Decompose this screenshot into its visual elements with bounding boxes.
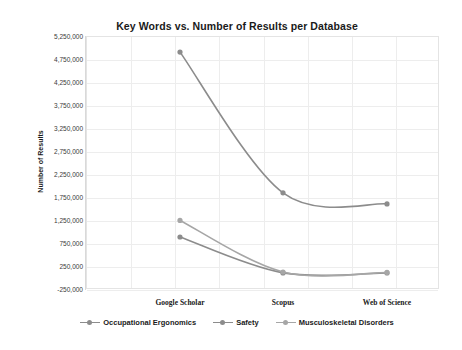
chart-container: Key Words vs. Number of Results per Data… [25, 10, 449, 340]
data-point-marker [177, 234, 182, 239]
legend-label: Safety [236, 318, 259, 327]
legend-label: Occupational Ergonomics [103, 318, 196, 327]
legend-marker-icon [213, 319, 233, 326]
legend-item[interactable]: Safety [213, 318, 259, 327]
legend-item[interactable]: Musculoskeletal Disorders [276, 318, 394, 327]
series-line [180, 220, 387, 275]
legend-item[interactable]: Occupational Ergonomics [80, 318, 196, 327]
data-point-marker [177, 50, 182, 55]
series-lines [25, 10, 449, 340]
series-line [180, 52, 387, 207]
legend-marker-icon [80, 319, 100, 326]
legend-label: Musculoskeletal Disorders [299, 318, 394, 327]
chart-legend: Occupational ErgonomicsSafetyMusculoskel… [25, 318, 449, 327]
data-point-marker [384, 201, 389, 206]
data-point-marker [280, 269, 285, 274]
data-point-marker [384, 270, 389, 275]
data-point-marker [280, 190, 285, 195]
legend-marker-icon [276, 319, 296, 326]
data-point-marker [177, 218, 182, 223]
